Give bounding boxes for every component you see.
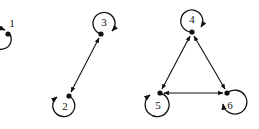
- node-label-4: 4: [189, 13, 195, 25]
- node-dot-2: [66, 93, 71, 98]
- graph-canvas: 1 3 2 4 5 6: [0, 0, 259, 129]
- node-label-6: 6: [227, 99, 233, 111]
- node-4: 4: [181, 10, 203, 35]
- node-dot-4: [189, 29, 194, 34]
- node-2: 2: [53, 93, 75, 116]
- edge-4-6: [194, 36, 225, 89]
- node-3: 3: [93, 12, 115, 36]
- node-dot-5: [157, 90, 162, 95]
- node-dot-6: [224, 90, 229, 95]
- node-5: 5: [145, 90, 169, 116]
- node-label-5: 5: [155, 99, 161, 111]
- edge-2-3: [71, 38, 99, 92]
- node-1: 1: [0, 17, 15, 49]
- node-label-1: 1: [9, 17, 15, 29]
- node-dot-3: [98, 31, 103, 36]
- edge-4-5: [162, 36, 190, 89]
- node-6: 6: [223, 90, 247, 114]
- node-label-3: 3: [101, 16, 107, 28]
- node-label-2: 2: [62, 100, 68, 112]
- node-dot-1: [5, 31, 10, 36]
